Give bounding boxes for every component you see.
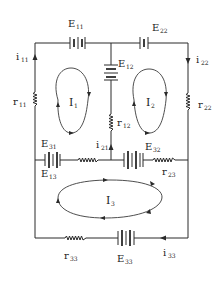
label-i21: i 21 <box>96 139 109 151</box>
label-E31: E 31 <box>41 138 57 150</box>
label-r23: r 23 <box>162 166 176 178</box>
svg-text:33: 33 <box>70 255 78 262</box>
svg-text:r: r <box>117 117 122 128</box>
svg-text:23: 23 <box>168 171 176 178</box>
svg-text:3: 3 <box>111 200 115 207</box>
label-i22: i 22 <box>196 54 209 66</box>
svg-text:I: I <box>106 194 110 207</box>
label-I2: I 2 <box>146 96 155 109</box>
svg-text:32: 32 <box>153 146 161 153</box>
battery-E11 <box>70 37 85 49</box>
svg-text:E: E <box>118 58 125 69</box>
label-r33: r 33 <box>64 250 78 262</box>
svg-text:12: 12 <box>123 122 131 129</box>
svg-text:22: 22 <box>160 27 168 34</box>
svg-text:r: r <box>162 166 167 177</box>
svg-text:22: 22 <box>204 104 212 111</box>
resistor-r33 <box>65 236 86 240</box>
svg-text:i: i <box>163 247 166 258</box>
battery-E12 <box>104 65 118 80</box>
label-r22: r 22 <box>198 99 212 111</box>
label-I1: I 1 <box>69 96 78 109</box>
svg-text:i: i <box>96 139 99 150</box>
svg-text:E: E <box>41 138 48 149</box>
svg-text:21: 21 <box>101 144 109 151</box>
label-E33: E 33 <box>117 253 133 265</box>
svg-text:11: 11 <box>19 101 27 108</box>
svg-text:I: I <box>69 96 73 109</box>
svg-text:11: 11 <box>76 23 84 30</box>
resistor-r12 <box>109 114 113 131</box>
label-r12: r 12 <box>117 117 131 129</box>
resistor-r22 <box>186 93 190 110</box>
svg-text:13: 13 <box>49 173 57 180</box>
resistor-r13 <box>78 158 98 162</box>
arrow-i33-icon <box>160 236 166 241</box>
svg-text:E: E <box>117 253 124 264</box>
resistor-r11 <box>33 92 37 106</box>
resistor-r23 <box>153 158 175 162</box>
svg-text:i: i <box>16 51 19 62</box>
svg-text:1: 1 <box>74 102 78 109</box>
svg-text:22: 22 <box>201 59 209 66</box>
svg-text:E: E <box>145 141 152 152</box>
svg-text:11: 11 <box>21 56 29 63</box>
label-I3: I 3 <box>106 194 115 207</box>
arrow-i11-icon <box>33 54 38 60</box>
svg-text:31: 31 <box>49 143 57 150</box>
svg-text:r: r <box>13 96 18 107</box>
svg-text:E: E <box>68 18 75 29</box>
svg-text:r: r <box>64 250 69 261</box>
label-E13: E 13 <box>41 168 57 180</box>
label-r11: r 11 <box>13 96 27 108</box>
circuit-diagram: E 11 E 22 E 12 E 31 E 13 E 32 E 33 r 11 … <box>0 0 224 282</box>
arrow-i21-icon <box>109 144 114 150</box>
battery-E32 <box>124 151 143 169</box>
label-E32: E 32 <box>145 141 161 153</box>
svg-text:33: 33 <box>168 252 176 259</box>
svg-text:i: i <box>196 54 199 65</box>
label-i33: i 33 <box>163 247 176 259</box>
label-E22: E 22 <box>152 22 168 34</box>
battery-E31 <box>45 152 60 168</box>
wires <box>35 43 188 238</box>
label-i11: i 11 <box>16 51 29 63</box>
svg-text:E: E <box>41 168 48 179</box>
svg-text:12: 12 <box>126 63 134 70</box>
svg-text:I: I <box>146 96 150 109</box>
svg-text:r: r <box>198 99 203 110</box>
label-E11: E 11 <box>68 18 84 30</box>
svg-text:E: E <box>152 22 159 33</box>
label-E12: E 12 <box>118 58 134 70</box>
battery-E22 <box>140 37 148 49</box>
svg-text:2: 2 <box>151 102 155 109</box>
svg-text:33: 33 <box>125 258 133 265</box>
arrow-i22-icon <box>186 58 191 64</box>
battery-E33 <box>118 230 134 246</box>
